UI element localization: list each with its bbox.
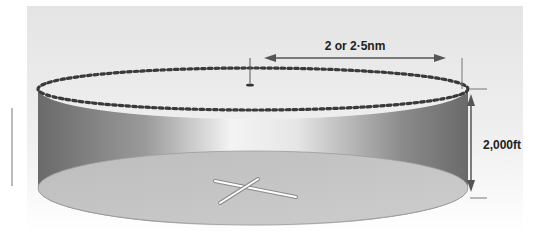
height-label: 2,000ft — [483, 138, 521, 152]
radius-label: 2 or 2·5nm — [325, 39, 386, 53]
cylinder-diagram: 2 or 2·5nm 2,000ft — [0, 0, 543, 233]
